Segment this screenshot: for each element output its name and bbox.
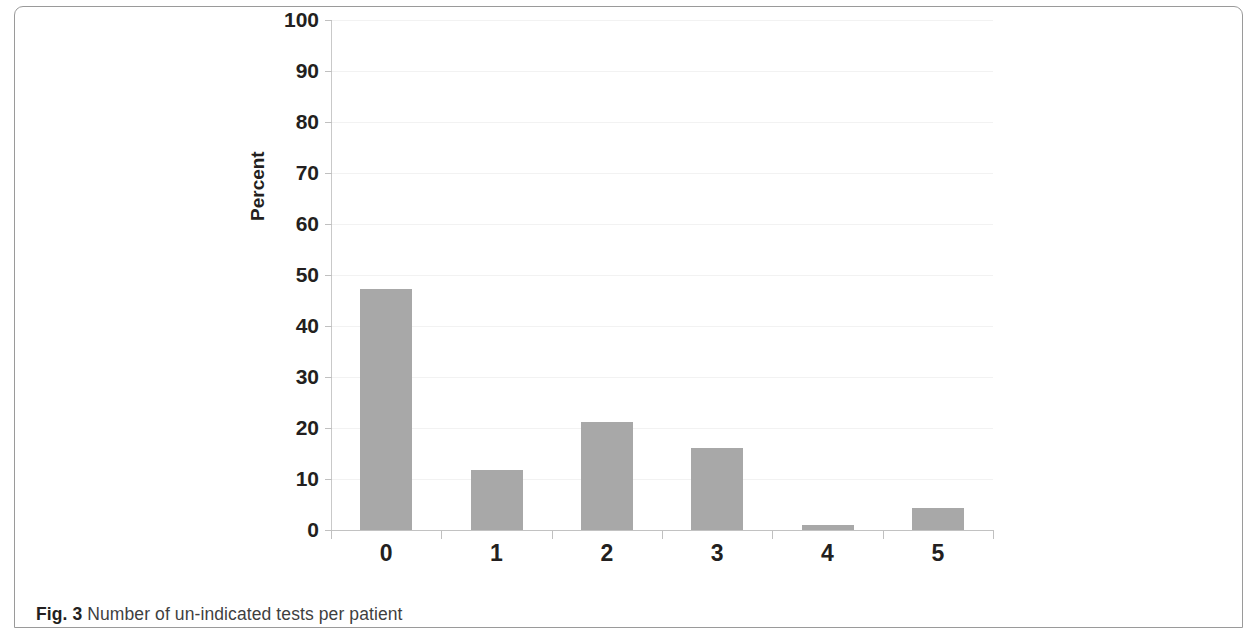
gridline xyxy=(331,377,993,378)
y-axis-tick xyxy=(325,479,332,480)
x-axis-tick xyxy=(662,531,663,539)
bar-0 xyxy=(360,289,412,530)
x-axis-tick-label: 1 xyxy=(457,542,537,565)
gridline xyxy=(331,326,993,327)
y-axis-tick xyxy=(325,71,332,72)
y-axis-tick-label: 60 xyxy=(259,213,319,234)
gridline xyxy=(331,224,993,225)
figure-caption-label: Fig. 3 xyxy=(36,604,82,624)
bar-2 xyxy=(581,422,633,530)
gridline xyxy=(331,20,993,21)
y-axis-tick-label: 30 xyxy=(259,366,319,387)
gridline xyxy=(331,173,993,174)
y-axis-tick xyxy=(325,224,332,225)
bar-4 xyxy=(802,525,854,530)
bar-5 xyxy=(912,508,964,530)
y-axis-tick-labels: 1009080706050403020100 xyxy=(245,7,319,573)
figure-frame: Percent 1009080706050403020100 Number of… xyxy=(14,6,1243,628)
gridline xyxy=(331,275,993,276)
y-axis-tick-label: 80 xyxy=(259,111,319,132)
y-axis-tick-label: 20 xyxy=(259,417,319,438)
gridline xyxy=(331,479,993,480)
y-axis-tick xyxy=(325,428,332,429)
gridline xyxy=(331,428,993,429)
y-axis-tick-label: 40 xyxy=(259,315,319,336)
x-axis-tick-label: 3 xyxy=(677,542,757,565)
x-axis-tick-label: 4 xyxy=(788,542,868,565)
bar-chart: Percent 1009080706050403020100 Number of… xyxy=(15,7,1244,573)
plot-area xyxy=(331,20,993,530)
x-axis-tick xyxy=(552,531,553,539)
x-axis-tick xyxy=(441,531,442,539)
y-axis-tick xyxy=(325,20,332,21)
y-axis-tick-label: 0 xyxy=(259,519,319,540)
y-axis-tick-label: 50 xyxy=(259,264,319,285)
y-axis-tick-label: 10 xyxy=(259,468,319,489)
y-axis-tick xyxy=(325,275,332,276)
figure-caption: Fig. 3 Number of un-indicated tests per … xyxy=(36,604,403,625)
gridline xyxy=(331,122,993,123)
bar-1 xyxy=(471,470,523,530)
y-axis-tick xyxy=(325,173,332,174)
y-axis-tick-label: 90 xyxy=(259,60,319,81)
x-axis-tick xyxy=(331,531,332,539)
x-axis-tick xyxy=(993,531,994,539)
bar-3 xyxy=(691,448,743,530)
y-axis-tick-label: 70 xyxy=(259,162,319,183)
x-axis-tick-label: 5 xyxy=(898,542,978,565)
figure-caption-text: Number of un-indicated tests per patient xyxy=(87,604,402,624)
x-axis-tick-label: 0 xyxy=(346,542,426,565)
x-axis-tick-label: 2 xyxy=(567,542,647,565)
y-axis-tick xyxy=(325,326,332,327)
y-axis-tick-label: 100 xyxy=(259,9,319,30)
y-axis-tick xyxy=(325,377,332,378)
x-axis-tick xyxy=(883,531,884,539)
x-axis-tick xyxy=(772,531,773,539)
y-axis-tick xyxy=(325,122,332,123)
gridline xyxy=(331,71,993,72)
